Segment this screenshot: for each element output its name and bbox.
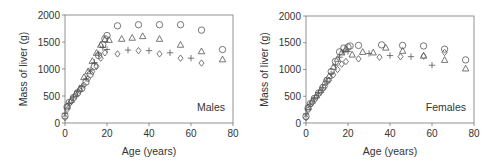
plus-marker [146,47,152,53]
triangle-marker [462,65,468,71]
x-tick-label: 60 [185,128,197,139]
plus-marker [188,55,194,61]
circle-marker [156,22,162,28]
diamond-marker [356,56,361,62]
triangle-marker [360,49,366,55]
x-tick-label: 40 [143,128,155,139]
triangle-marker [198,48,204,54]
diamond-marker [157,51,162,57]
circle-marker [177,22,183,28]
x-tick-label: 20 [101,128,113,139]
plus-marker [408,53,414,59]
panel-label: Males [197,101,225,113]
y-tick-label: 1500 [38,37,61,48]
triangle-marker [140,33,146,39]
y-axis-label: Mass of liver (g) [17,32,29,107]
triangle-marker [119,36,125,42]
diamond-marker [377,54,382,60]
y-tick-label: 0 [295,118,301,129]
x-axis-label: Age (years) [363,145,417,157]
panel-label: Females [426,101,466,113]
circle-marker [355,42,361,48]
x-tick-label: 0 [303,128,309,139]
diamond-marker [115,51,120,57]
y-tick-label: 1000 [38,64,61,75]
y-tick-label: 1000 [279,64,302,75]
triangle-marker [441,57,447,63]
plus-marker [387,52,393,58]
triangle-marker [219,56,225,62]
diamond-marker [398,53,403,59]
triangle-marker [177,42,183,48]
triangle-marker [156,36,162,42]
females-chart: 0500100015002000020406080Age (years)Mass… [258,11,480,158]
plus-marker [62,110,68,116]
plus-marker [366,50,372,56]
y-tick-label: 500 [284,91,301,102]
x-tick-label: 40 [384,128,396,139]
diamond-marker [199,60,204,66]
y-tick-label: 500 [43,91,60,102]
circle-marker [462,57,468,63]
x-axis-label: Age (years) [122,145,176,157]
figure: 0500100015002000020406080Age (years)Mass… [0,0,496,168]
triangle-marker [349,51,355,57]
circle-marker [135,22,141,28]
x-tick-label: 0 [62,128,68,139]
diamond-marker [136,47,141,53]
triangle-marker [129,34,135,40]
series-plus [62,44,194,116]
x-tick-label: 60 [426,128,438,139]
plus-marker [429,62,435,68]
y-tick-label: 0 [54,118,60,129]
series-triangle [64,33,226,108]
circle-marker [219,46,225,52]
plus-marker [95,51,101,57]
plus-marker [125,47,131,53]
males-chart: 0500100015002000020406080Age (years)Mass… [17,10,239,158]
y-axis-label: Mass of liver (g) [258,32,270,107]
x-tick-label: 80 [227,128,239,139]
y-tick-label: 2000 [279,11,302,22]
circle-marker [114,23,120,29]
circle-marker [420,43,426,49]
circle-marker [198,27,204,33]
triangle-marker [370,49,376,55]
diamond-marker [178,55,183,61]
x-tick-label: 80 [468,128,480,139]
y-tick-label: 1500 [279,37,302,48]
x-tick-label: 20 [342,128,354,139]
plus-marker [91,59,97,65]
y-tick-label: 2000 [38,10,61,21]
plus-marker [332,62,338,68]
liver-mass-charts: 0500100015002000020406080Age (years)Mass… [0,0,496,168]
plus-marker [167,50,173,56]
